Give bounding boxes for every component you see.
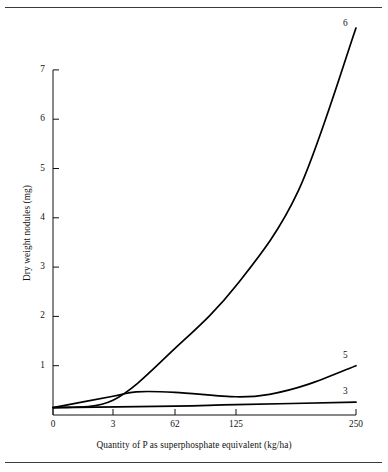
series-label-3: 3 bbox=[343, 386, 348, 396]
x-tick-label: 0 bbox=[38, 419, 68, 429]
series-label-6: 6 bbox=[343, 18, 348, 28]
y-tick-label: 5 bbox=[31, 163, 45, 173]
x-axis-title: Quantity of P as superphosphate equivale… bbox=[0, 440, 388, 450]
y-tick-label: 7 bbox=[31, 64, 45, 74]
axes-group bbox=[53, 70, 356, 415]
y-tick-label: 4 bbox=[31, 212, 45, 222]
y-tick-label: 1 bbox=[31, 360, 45, 370]
y-tick-label: 3 bbox=[31, 261, 45, 271]
chart-plot-area bbox=[0, 0, 388, 472]
x-tick-label: 125 bbox=[221, 419, 251, 429]
y-tick-label: 6 bbox=[31, 113, 45, 123]
series-curve-6 bbox=[53, 28, 356, 408]
series-curve-5 bbox=[53, 366, 356, 408]
series-label-5: 5 bbox=[343, 350, 348, 360]
x-tick-label: 3 bbox=[98, 419, 128, 429]
y-tick-label: 2 bbox=[31, 310, 45, 320]
y-axis-title: Dry weight nodules (mg) bbox=[22, 138, 32, 328]
figure-container: 1234567 0362125250 653 Dry weight nodule… bbox=[0, 0, 388, 472]
series-curves-group bbox=[53, 28, 356, 408]
x-tick-label: 250 bbox=[341, 419, 371, 429]
x-tick-label: 62 bbox=[160, 419, 190, 429]
